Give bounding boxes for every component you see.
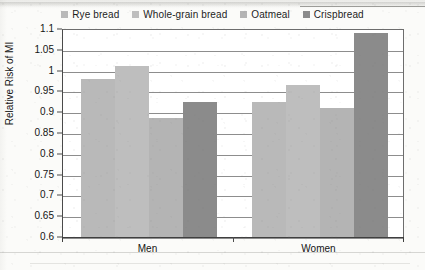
scan-smudge-2	[30, 263, 410, 264]
legend-item: Crispbread	[303, 9, 364, 20]
legend-item: Rye bread	[61, 9, 119, 20]
scan-rule-top	[300, 6, 425, 7]
y-tick-label: 0.6	[40, 232, 54, 242]
legend-item: Oatmeal	[240, 9, 290, 20]
y-tick-mark	[57, 49, 62, 50]
y-tick-label: 0.65	[35, 211, 54, 221]
y-tick-mark	[57, 216, 62, 217]
y-tick-mark	[57, 153, 62, 154]
x-axis-tick-right	[403, 237, 404, 242]
y-tick-label: 1.05	[35, 45, 54, 55]
y-tick-label: 0.8	[40, 149, 54, 159]
y-tick-label: 0.75	[35, 170, 54, 180]
scan-smudge-1	[0, 252, 425, 253]
y-tick-mark	[57, 133, 62, 134]
legend-item-label: Oatmeal	[251, 9, 290, 20]
x-axis-tick-mid	[233, 237, 234, 242]
bar	[354, 33, 388, 237]
y-tick-label: 0.7	[40, 190, 54, 200]
y-tick-mark	[57, 195, 62, 196]
legend-item-label: Whole-grain bread	[143, 9, 227, 20]
legend-swatch-icon	[132, 11, 139, 18]
plot-area	[62, 29, 404, 237]
y-axis-title: Relative Risk of MI	[4, 25, 15, 143]
bar	[286, 85, 320, 237]
y-tick-mark	[57, 29, 62, 30]
bar	[115, 66, 149, 237]
legend-swatch-icon	[61, 11, 68, 18]
y-tick-label: 0.95	[35, 86, 54, 96]
bar	[183, 102, 217, 237]
y-tick-mark	[57, 174, 62, 175]
legend-item-label: Rye bread	[72, 9, 119, 20]
x-axis-tick-left	[62, 237, 63, 242]
bar	[320, 108, 354, 237]
y-tick-mark	[57, 70, 62, 71]
chart-legend: Rye breadWhole-grain breadOatmealCrispbr…	[0, 9, 425, 20]
y-tick-mark	[57, 91, 62, 92]
bars-layer	[63, 30, 403, 237]
y-tick-label: 0.9	[40, 107, 54, 117]
x-group-label: Men	[138, 243, 157, 255]
y-tick-label: 1.1	[40, 24, 54, 34]
x-group-label: Women	[301, 243, 335, 255]
chart-page: Rye breadWhole-grain breadOatmealCrispbr…	[0, 0, 425, 270]
bar	[81, 79, 115, 237]
legend-swatch-icon	[303, 11, 310, 18]
legend-swatch-icon	[240, 11, 247, 18]
y-tick-label: 1	[48, 66, 54, 76]
y-tick-label: 0.85	[35, 128, 54, 138]
bar	[149, 118, 183, 237]
y-tick-mark	[57, 112, 62, 113]
legend-item: Whole-grain bread	[132, 9, 227, 20]
bar	[252, 102, 286, 237]
legend-item-label: Crispbread	[314, 9, 364, 20]
